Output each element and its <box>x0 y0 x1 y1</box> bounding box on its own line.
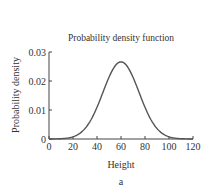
x-tick-label: 80 <box>140 141 150 152</box>
figure-caption: a <box>119 176 124 187</box>
x-tick-label: 0 <box>47 141 52 152</box>
pdf-curve <box>49 62 193 139</box>
y-axis-label: Probability density <box>10 57 21 133</box>
y-axis: 00.010.020.03 <box>29 47 53 145</box>
x-axis-label: Height <box>107 159 134 170</box>
x-tick-label: 20 <box>68 141 78 152</box>
pdf-chart: Probability density function 00.010.020.… <box>0 0 215 195</box>
chart-title: Probability density function <box>68 33 174 43</box>
y-tick-label: 0.01 <box>29 105 47 116</box>
x-tick-label: 120 <box>186 141 201 152</box>
x-tick-label: 100 <box>162 141 177 152</box>
y-tick-label: 0.02 <box>29 76 47 87</box>
y-tick-label: 0 <box>41 134 46 145</box>
x-tick-label: 60 <box>116 141 126 152</box>
x-tick-label: 40 <box>92 141 102 152</box>
y-tick-label: 0.03 <box>29 47 47 58</box>
